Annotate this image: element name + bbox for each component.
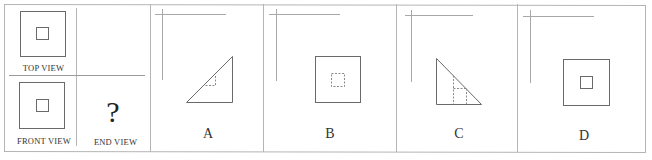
end-view-question-mark: ? xyxy=(93,95,133,129)
option-a-label: A xyxy=(188,126,228,142)
option-d-panel[interactable]: D xyxy=(518,5,645,152)
option-c-label: C xyxy=(439,126,479,142)
front-view-label: FRONT VIEW xyxy=(14,136,74,146)
option-d-label: D xyxy=(564,128,604,144)
orthographic-projection-question: TOP VIEW FRONT VIEW ? END VIEW A B xyxy=(0,0,652,160)
option-b-label: B xyxy=(310,126,350,142)
option-b-panel[interactable]: B xyxy=(264,5,396,152)
end-view-label: END VIEW xyxy=(88,137,143,147)
option-c-panel[interactable]: C xyxy=(397,5,517,152)
option-a-panel[interactable]: A xyxy=(151,5,263,152)
